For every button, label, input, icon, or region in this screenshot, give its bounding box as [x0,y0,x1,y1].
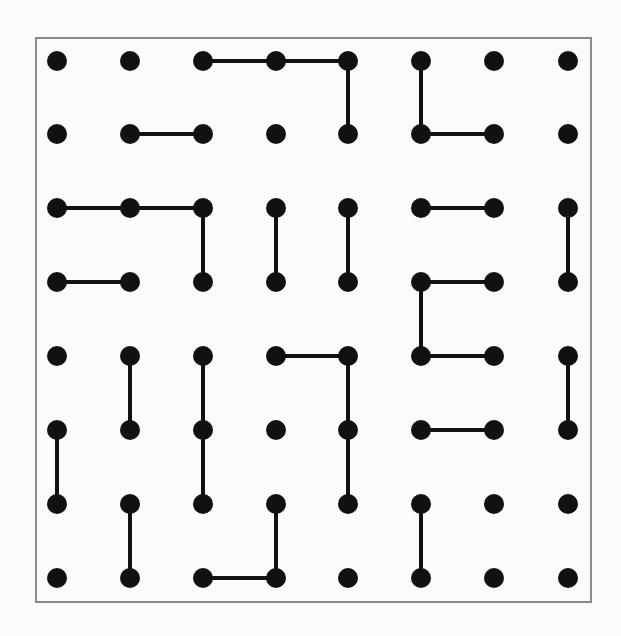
grid-dot [338,420,358,440]
grid-dot [193,494,213,514]
grid-dot [484,198,504,218]
grid-dot [120,198,140,218]
grid-dot [484,568,504,588]
diagram-frame [36,38,591,602]
grid-dot [120,124,140,144]
grid-dot [411,346,431,366]
grid-dot [411,494,431,514]
grid-dot [266,124,286,144]
grid-dot [484,494,504,514]
grid-dot [120,494,140,514]
grid-dot [411,272,431,292]
grid-dot [338,494,358,514]
grid-dot [411,420,431,440]
grid-dot [193,272,213,292]
grid-dot [558,124,578,144]
grid-dot [47,568,67,588]
dot-grid-diagram [0,0,621,636]
grid-dot [484,272,504,292]
grid-dot [558,198,578,218]
grid-dot [266,494,286,514]
grid-dot [484,124,504,144]
grid-dot [266,420,286,440]
grid-dot [484,51,504,71]
grid-dot [193,346,213,366]
grid-dot [558,420,578,440]
grid-dot [47,51,67,71]
grid-dot [120,51,140,71]
grid-dot [120,420,140,440]
grid-dot [193,420,213,440]
grid-dot [47,494,67,514]
grid-dot [47,420,67,440]
grid-dot [338,198,358,218]
grid-dot [47,124,67,144]
grid-dot [338,568,358,588]
grid-dot [193,568,213,588]
grid-dot [558,51,578,71]
grid-dot [338,272,358,292]
grid-dot [47,272,67,292]
grid-dot [47,198,67,218]
grid-dot [120,346,140,366]
grid-dot [338,346,358,366]
grid-dot [193,124,213,144]
grid-dot [484,346,504,366]
grid-dot [266,272,286,292]
grid-dot [558,494,578,514]
grid-dot [120,272,140,292]
grid-dot [411,51,431,71]
grid-dot [484,420,504,440]
grid-dot [558,568,578,588]
grid-dot [266,346,286,366]
grid-dot [558,346,578,366]
grid-dot [193,51,213,71]
grid-dot [47,346,67,366]
grid-dot [120,568,140,588]
grid-dot [411,568,431,588]
grid-dot [266,568,286,588]
grid-dot [338,124,358,144]
grid-dot [193,198,213,218]
grid-dot [266,51,286,71]
grid-dot [338,51,358,71]
grid-dot [558,272,578,292]
grid-dot [411,124,431,144]
grid-dot [411,198,431,218]
grid-dot [266,198,286,218]
